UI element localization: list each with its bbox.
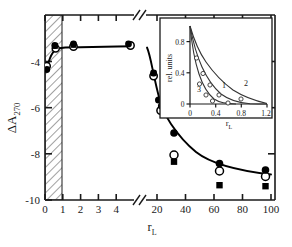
inset-y-tick-label-2: 0.8 [175, 38, 185, 47]
data-point [171, 159, 177, 165]
inset-x-axis-title-sub: L [229, 124, 233, 130]
inset-curve-label-2: 2 [244, 79, 248, 88]
x-tick-label-right-1: 40 [180, 203, 192, 215]
data-point [262, 166, 270, 174]
inset-data-point [239, 97, 243, 101]
x-tick-label-right-4: 100 [263, 203, 280, 215]
x-tick-labels-left: 0 1 2 3 4 [42, 203, 119, 215]
x-axis-title-sub: L [152, 228, 157, 237]
inset-x-axis-title: rL [226, 118, 233, 130]
x-tick-label-left-2: 2 [78, 203, 84, 215]
y-tick-label-2: -8 [31, 148, 41, 160]
x-tick-labels-right: 20 40 60 80 100 [152, 203, 280, 215]
inset-data-point [194, 56, 198, 60]
data-point [216, 167, 224, 175]
inset-y-tick-label-0: 0 [181, 100, 185, 109]
inset-y-tick-label-1: 0.4 [175, 69, 185, 78]
data-point [216, 182, 222, 188]
inset-data-point [204, 93, 208, 97]
inset-data-point [201, 71, 205, 75]
svg-text:ΔA270: ΔA270 [4, 103, 22, 134]
inset-data-point [208, 83, 212, 87]
x-axis-break-bottom-icon [133, 195, 146, 205]
inset-data-point [217, 93, 221, 97]
y-axis-title: ΔA270 [4, 103, 22, 134]
data-point [71, 42, 77, 48]
data-point [262, 183, 268, 189]
inset-chart: 0 0.4 0.8 0 0.4 0.8 1.2 rel. units [160, 18, 272, 130]
y-tick-label-1: -6 [31, 102, 41, 114]
main-chart-svg: -4 -6 -8 -10 ΔA270 0 1 [0, 0, 292, 247]
data-point [170, 129, 178, 137]
inset-x-tick-label-2: 0.8 [237, 109, 247, 118]
y-axis-title-main: ΔA [4, 115, 19, 133]
x-axis-title: rL [147, 220, 156, 237]
x-tick-label-right-2: 60 [209, 203, 221, 215]
inset-x-tick-label-0: 0 [188, 109, 192, 118]
x-tick-label-right-3: 80 [237, 203, 249, 215]
y-axis-title-sub: 270 [12, 103, 22, 116]
inset-x-tick-label-3: 1.2 [261, 109, 271, 118]
inset-data-point [210, 99, 214, 103]
figure-container: -4 -6 -8 -10 ΔA270 0 1 [0, 0, 292, 247]
data-point [125, 41, 132, 48]
x-axis-break-top-icon [133, 10, 146, 20]
x-tick-label-left-3: 3 [96, 203, 102, 215]
inset-data-point [226, 101, 230, 105]
data-point [170, 151, 178, 159]
x-tick-label-right-0: 20 [152, 203, 164, 215]
data-point [151, 71, 157, 77]
x-tick-label-left-1: 1 [60, 203, 66, 215]
inset-curve-label-1: 1 [222, 81, 226, 90]
data-point [52, 43, 58, 49]
y-tick-label-0: -4 [31, 56, 41, 68]
svg-text:rel. units: rel. units [165, 54, 174, 82]
x-tick-label-left-4: 4 [113, 203, 119, 215]
inset-curve-label-3: 3 [197, 85, 201, 94]
inset-x-tick-label-1: 0.4 [211, 109, 221, 118]
y-tick-label-3: -10 [25, 194, 40, 206]
x-tick-label-left-0: 0 [42, 203, 48, 215]
data-point [216, 160, 224, 168]
inset-y-axis-title: rel. units [165, 54, 174, 82]
y-tick-labels: -4 -6 -8 -10 [25, 56, 40, 207]
